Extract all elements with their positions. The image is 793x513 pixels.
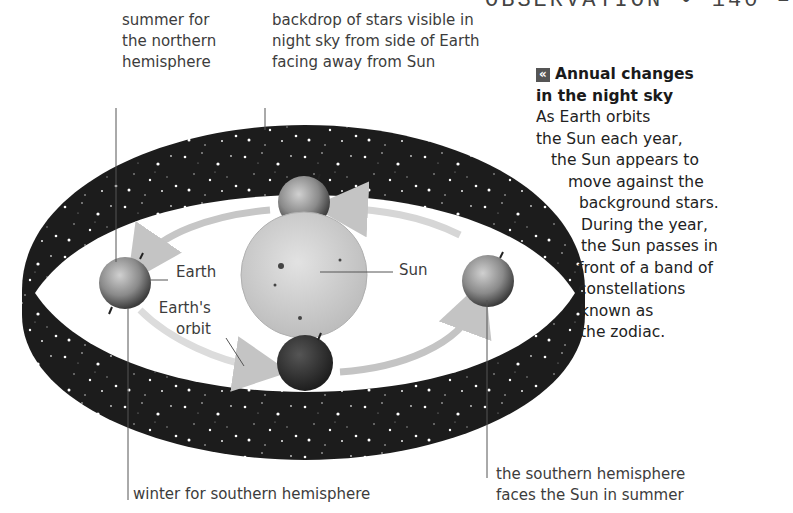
caption-line: constellations <box>536 279 719 301</box>
earth-bottom <box>277 335 333 391</box>
caption-line: During the year, <box>536 215 719 237</box>
label-summer-north: summer for the northern hemisphere <box>122 10 216 73</box>
double-chevron-left-icon: « <box>536 68 550 82</box>
earth-left <box>99 257 151 309</box>
caption-line: the zodiac. <box>536 322 719 344</box>
label-winter-south: winter for southern hemisphere <box>133 484 370 505</box>
caption-line: move against the <box>536 172 719 194</box>
sun <box>241 212 367 338</box>
caption-line: the Sun passes in <box>536 236 719 258</box>
caption-line: front of a band of <box>536 258 719 280</box>
earth-right <box>462 255 514 307</box>
label-star-backdrop: backdrop of stars visible in night sky f… <box>272 10 480 73</box>
label-southern-summer: the southern hemisphere faces the Sun in… <box>496 464 685 506</box>
caption-line: the Sun appears to <box>536 150 719 172</box>
label-earths-orbit: Earth's orbit <box>156 298 211 340</box>
caption-line: As Earth orbits <box>536 107 719 129</box>
caption-line: the Sun each year, <box>536 129 719 151</box>
caption-panel: «Annual changes in the night sky As Eart… <box>536 64 719 344</box>
caption-title-line-2: in the night sky <box>536 86 719 108</box>
label-sun: Sun <box>399 260 428 281</box>
caption-line: known as <box>536 301 719 323</box>
label-earth: Earth <box>176 262 216 283</box>
caption-title-line-1: «Annual changes <box>536 64 719 86</box>
caption-line: background stars. <box>536 193 719 215</box>
